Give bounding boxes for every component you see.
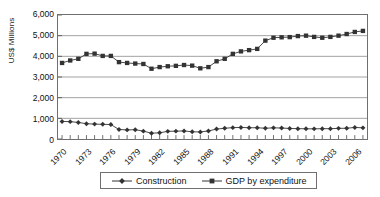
data-point-marker (304, 34, 308, 38)
y-axis-tick-label: 5,000 (14, 30, 54, 40)
data-point-marker (344, 126, 349, 131)
data-point-marker (296, 34, 300, 38)
y-axis-tick-label: 2,000 (14, 93, 54, 103)
data-point-marker (182, 128, 187, 133)
data-point-marker (360, 125, 365, 130)
data-point-marker (263, 38, 267, 42)
data-point-marker (190, 63, 194, 67)
data-point-marker (125, 61, 129, 65)
data-point-marker (125, 127, 130, 132)
plot-area (57, 14, 368, 140)
series-gdp-by-expenditure (60, 29, 365, 71)
data-point-marker (76, 120, 81, 125)
y-axis-tick-label: 0 (14, 135, 54, 145)
data-point-marker (344, 32, 348, 36)
data-point-marker (320, 126, 325, 131)
data-point-marker (198, 130, 203, 135)
data-point-marker (165, 129, 170, 134)
series-line (62, 121, 363, 133)
data-point-marker (255, 125, 260, 130)
data-point-marker (288, 35, 292, 39)
legend-label: GDP by expenditure (226, 176, 307, 186)
data-point-marker (222, 126, 227, 131)
data-point-marker (328, 126, 333, 131)
legend-diamond-marker-icon (111, 176, 133, 186)
data-point-marker (271, 125, 276, 130)
data-point-marker (76, 57, 80, 61)
data-point-marker (312, 126, 317, 131)
data-point-marker (149, 131, 154, 136)
data-point-marker (100, 122, 105, 127)
legend-square-marker-icon (201, 176, 223, 186)
series-line (62, 31, 363, 69)
data-point-marker (206, 128, 211, 133)
data-point-marker (279, 35, 283, 39)
data-point-marker (84, 121, 89, 126)
data-point-marker (247, 125, 252, 130)
data-point-marker (92, 122, 97, 127)
data-point-marker (60, 61, 64, 65)
data-point-marker (328, 35, 332, 39)
data-point-marker (206, 65, 210, 69)
data-point-marker (157, 65, 161, 69)
data-point-marker (247, 48, 251, 52)
data-point-marker (190, 129, 195, 134)
data-point-marker (279, 126, 284, 131)
data-point-marker (312, 35, 316, 39)
data-point-marker (304, 126, 309, 131)
data-point-marker (295, 126, 300, 131)
y-axis-tick-labels: 01,0002,0003,0004,0005,0006,000 (14, 8, 54, 144)
data-point-marker (133, 61, 137, 65)
data-point-marker (101, 54, 105, 58)
y-axis-tick-label: 1,000 (14, 114, 54, 124)
data-point-marker (320, 36, 324, 40)
data-point-marker (231, 52, 235, 56)
y-axis-tick-label: 4,000 (14, 51, 54, 61)
legend-label: Construction (136, 176, 187, 186)
data-point-marker (84, 52, 88, 56)
data-point-marker (92, 51, 96, 55)
data-point-marker (174, 64, 178, 68)
data-point-marker (230, 125, 235, 130)
series-construction (60, 119, 366, 136)
data-point-marker (255, 47, 259, 51)
chart-container: US$ Millions 01,0002,0003,0004,0005,0006… (0, 0, 380, 197)
data-point-marker (214, 127, 219, 132)
data-point-marker (361, 29, 365, 33)
data-point-marker (287, 126, 292, 131)
data-point-marker (263, 126, 268, 131)
data-point-marker (271, 36, 275, 40)
data-point-marker (68, 119, 73, 124)
data-point-marker (214, 59, 218, 63)
data-point-marker (133, 127, 138, 132)
data-point-marker (238, 125, 243, 130)
data-point-marker (353, 30, 357, 34)
data-point-marker (117, 127, 122, 132)
legend-item[interactable]: Construction (111, 176, 187, 186)
chart-legend: ConstructionGDP by expenditure (100, 172, 317, 189)
y-axis-tick-label: 3,000 (14, 72, 54, 82)
data-point-marker (182, 63, 186, 67)
data-point-marker (198, 66, 202, 70)
data-point-marker (109, 54, 113, 58)
data-point-marker (149, 67, 153, 71)
data-point-marker (108, 122, 113, 127)
data-point-marker (68, 58, 72, 62)
data-point-marker (239, 49, 243, 53)
data-point-marker (141, 62, 145, 66)
data-point-marker (166, 64, 170, 68)
legend-item[interactable]: GDP by expenditure (201, 176, 307, 186)
data-point-marker (173, 129, 178, 134)
y-axis-tick-label: 6,000 (14, 9, 54, 19)
data-point-marker (336, 126, 341, 131)
data-point-marker (117, 60, 121, 64)
data-point-marker (157, 130, 162, 135)
data-point-marker (223, 57, 227, 61)
data-point-marker (352, 125, 357, 130)
data-point-marker (141, 129, 146, 134)
plot-svg (58, 15, 367, 139)
data-point-marker (336, 34, 340, 38)
data-point-marker (60, 119, 65, 124)
